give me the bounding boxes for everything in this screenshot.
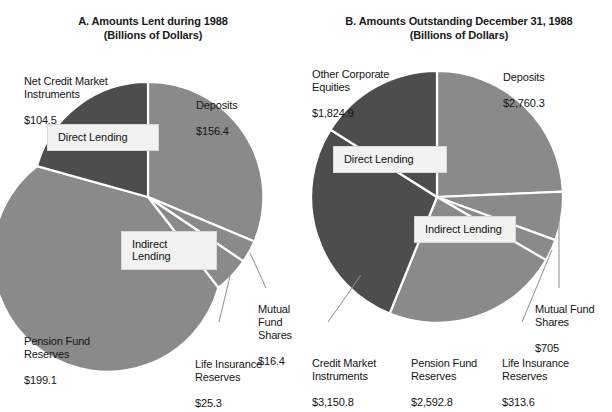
chart-a-callout-direct-lending: Direct Lending: [47, 124, 159, 151]
chart-a-label-deposits: Deposits $156.4: [196, 86, 238, 151]
chart-b-label-pension-value: $2,592.8: [411, 396, 477, 409]
chart-b-label-deposits: Deposits $2,760.3: [503, 58, 545, 123]
chart-a-callout-indirect-lending: Indirect Lending: [121, 231, 217, 270]
chart-a-label-mutual-value: $16.4: [258, 355, 306, 368]
chart-panel-b: B. Amounts Outstanding December 31, 1988…: [306, 0, 612, 407]
chart-b-label-mutual-title: Mutual Fund Shares: [535, 303, 595, 329]
chart-b-label-mutual-value: $705: [535, 342, 595, 355]
chart-b-label-pension-fund-reserves: Pension Fund Reserves $2,592.8: [411, 344, 477, 412]
chart-b-label-lifeins-value: $313.6: [502, 396, 569, 409]
chart-a-label-ncmi-title: Net Credit Market Instruments: [24, 75, 108, 101]
chart-panel-a: A. Amounts Lent during 1988 (Billions of…: [0, 0, 306, 407]
chart-b-label-oce-value: $1,824.9: [312, 107, 389, 120]
chart-a-label-pension-value: $199.1: [24, 374, 90, 387]
chart-b-label-cmi-title: Credit Market Instruments: [312, 357, 376, 383]
chart-a-label-deposits-value: $156.4: [196, 125, 238, 138]
chart-a-label-pension-fund-reserves: Pension Fund Reserves $199.1: [24, 322, 90, 400]
chart-a-label-mutual-title: Mutual Fund Shares: [258, 303, 306, 342]
chart-b-label-pension-title: Pension Fund Reserves: [411, 357, 477, 383]
chart-b-callout-direct-lending: Direct Lending: [333, 146, 447, 173]
chart-b-label-deposits-title: Deposits: [503, 71, 545, 84]
chart-b-label-mutual-fund-shares: Mutual Fund Shares $705: [535, 290, 595, 368]
chart-a-label-lifeins-title: Life Insurance Reserves: [195, 358, 262, 384]
chart-a-label-lifeins-value: $25.3: [195, 397, 262, 410]
chart-b-label-other-corporate-equities: Other Corporate Equities $1,824.9: [312, 55, 389, 133]
chart-b-label-oce-title: Other Corporate Equities: [312, 68, 389, 94]
pie-a-leader-mutual-fund-shares: [250, 253, 266, 288]
chart-a-label-life-insurance-reserves: Life Insurance Reserves $25.3: [195, 345, 262, 412]
chart-a-label-pension-title: Pension Fund Reserves: [24, 335, 90, 361]
chart-b-label-deposits-value: $2,760.3: [503, 97, 545, 110]
chart-a-label-deposits-title: Deposits: [196, 99, 238, 112]
chart-b-label-credit-market-instruments: Credit Market Instruments $3,150.8: [312, 344, 376, 412]
chart-a-label-mutual-fund-shares: Mutual Fund Shares $16.4: [258, 290, 306, 381]
chart-b-label-cmi-value: $3,150.8: [312, 396, 376, 409]
chart-b-callout-indirect-lending: Indirect Lending: [414, 216, 516, 243]
